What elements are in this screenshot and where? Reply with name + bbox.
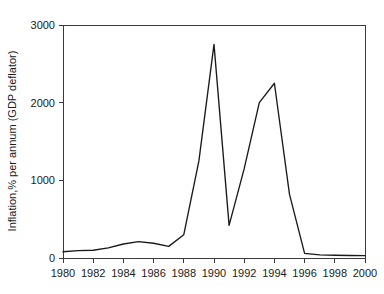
x-tick-label: 1998 (323, 267, 347, 279)
y-tick-label: 3000 (31, 19, 55, 31)
y-axis-title-label: Inflation,% per annum (GDP deflator) (6, 51, 18, 232)
y-tick-label: 0 (49, 252, 55, 264)
y-axis-title: Inflation,% per annum (GDP deflator) (6, 51, 18, 232)
x-tick-label: 1982 (81, 267, 105, 279)
x-tick-label: 1992 (232, 267, 256, 279)
x-tick-label: 1986 (141, 267, 165, 279)
y-tick-label: 1000 (31, 174, 55, 186)
x-tick-label: 1996 (292, 267, 316, 279)
x-tick-label: 1990 (202, 267, 226, 279)
x-tick-label: 1984 (111, 267, 135, 279)
x-tick-label: 1988 (172, 267, 196, 279)
chart-canvas: 0100020003000 19801982198419861988199019… (0, 0, 384, 294)
x-tick-label: 1980 (51, 267, 75, 279)
x-tick-label: 1994 (262, 267, 286, 279)
y-tick-label: 2000 (31, 97, 55, 109)
inflation-chart: 0100020003000 19801982198419861988199019… (0, 0, 384, 294)
x-tick-label: 2000 (353, 267, 377, 279)
chart-background (0, 0, 384, 294)
